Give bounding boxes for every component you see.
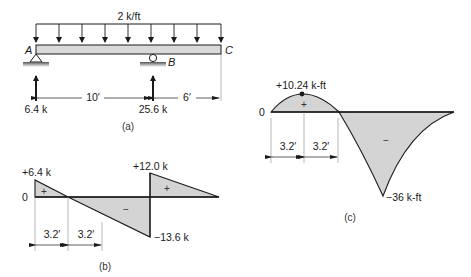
point-c-label: C [225, 44, 233, 56]
moment-dim-1-label: 3.2′ [280, 140, 297, 152]
distributed-load-arrows [36, 24, 221, 42]
caption-a: (a) [122, 121, 134, 132]
moment-minus-sign: − [383, 135, 389, 146]
shear-zero-label: 0 [22, 191, 28, 203]
shear-max-left-label: +6.4 k [22, 166, 52, 178]
moment-zero-label: 0 [259, 106, 265, 118]
shear-plus-sign: + [41, 186, 47, 197]
shear-dim-1-label: 3.2′ [44, 228, 61, 240]
shear-diagram: 0 +6.4 k +12.0 k −13.6 k + − + 3.2′ 3.2′… [22, 160, 219, 272]
span-bc-label: 6′ [183, 91, 191, 103]
beam [36, 45, 221, 54]
moment-dim-2-label: 3.2′ [313, 140, 330, 152]
moment-max-point [300, 92, 305, 97]
point-b-label: B [168, 56, 175, 68]
shear-minus-sign: − [123, 204, 129, 215]
load-label: 2 k/ft [118, 10, 141, 22]
moment-max-label: +10.24 k-ft [276, 79, 326, 91]
caption-c: (c) [344, 212, 356, 223]
point-a-label: A [24, 44, 32, 56]
reaction-a-label: 6.4 k [25, 103, 49, 115]
shear-dim-2-label: 3.2′ [78, 228, 95, 240]
roller-support-icon [140, 54, 166, 67]
beam-diagram: 2 k/ft A C B [23, 10, 233, 132]
moment-plus-sign: + [301, 99, 307, 110]
moment-extension-lines [271, 112, 338, 163]
span-ab-label: 10′ [86, 91, 100, 103]
beam-analysis-figure: 2 k/ft A C B [0, 0, 471, 277]
caption-b: (b) [99, 261, 111, 272]
moment-diagram: 0 +10.24 k-ft −36 k-ft + − 3.2′ 3.2′ (c) [259, 79, 454, 223]
shear-plus-sign-right: + [164, 183, 170, 194]
moment-min-label: −36 k-ft [386, 191, 421, 203]
shear-max-right-label: +12.0 k [133, 160, 168, 172]
shear-min-label: −13.6 k [154, 231, 189, 243]
reaction-b-label: 25.6 k [139, 103, 168, 115]
